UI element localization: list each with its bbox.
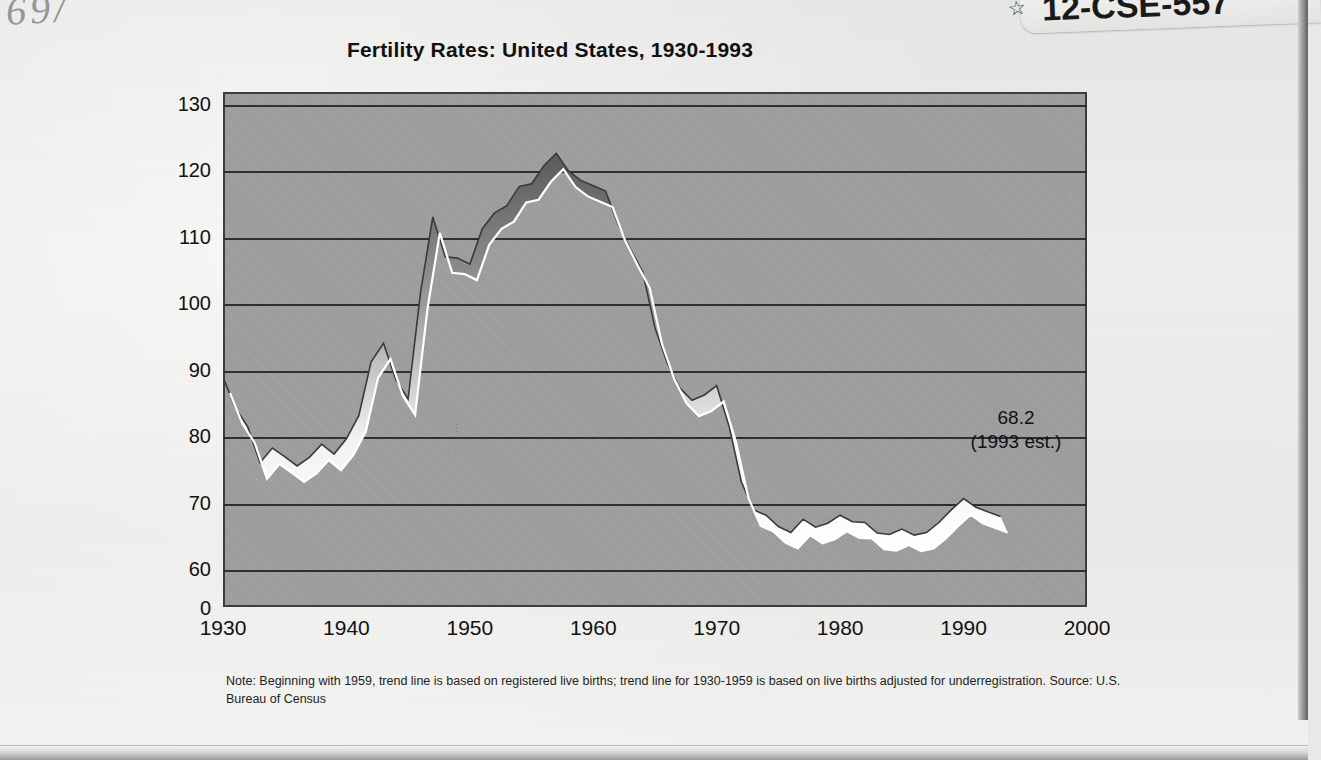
y-tick-100: 100 — [141, 292, 211, 315]
y-tick-120: 120 — [141, 159, 211, 182]
x-tick-1990: 1990 — [919, 616, 1009, 640]
scan-edge-right — [1298, 0, 1308, 720]
value-annotation: 68.2 (1993 est.) — [946, 406, 1086, 454]
scan-edge-bottom — [0, 746, 1308, 760]
y-tick-60: 60 — [141, 558, 211, 581]
x-tick-1980: 1980 — [795, 616, 885, 640]
x-tick-1940: 1940 — [301, 616, 391, 640]
y-tick-110: 110 — [141, 226, 211, 249]
sticker-star-icon: ☆ — [1006, 0, 1027, 21]
data-series-ribbon — [223, 92, 1087, 607]
scan-smudge: ⋮ — [451, 422, 462, 435]
x-tick-1970: 1970 — [672, 616, 762, 640]
x-tick-2000: 2000 — [1042, 616, 1132, 640]
scan-smudge: ᵗ — [455, 448, 457, 460]
annotation-caption: (1993 est.) — [946, 430, 1086, 454]
x-tick-1930: 1930 — [178, 616, 268, 640]
y-tick-70: 70 — [141, 492, 211, 515]
chart-footnote: Note: Beginning with 1959, trend line is… — [226, 672, 1126, 708]
y-tick-130: 130 — [141, 93, 211, 116]
chart-title: Fertility Rates: United States, 1930-199… — [0, 38, 1100, 62]
annotation-value: 68.2 — [946, 406, 1086, 430]
handwritten-annotation: 69/ — [5, 0, 70, 35]
fertility-rate-chart: ⋮ ᵗ — [223, 92, 1087, 607]
y-tick-80: 80 — [141, 425, 211, 448]
x-tick-1960: 1960 — [548, 616, 638, 640]
x-tick-1950: 1950 — [425, 616, 515, 640]
y-tick-90: 90 — [141, 359, 211, 382]
